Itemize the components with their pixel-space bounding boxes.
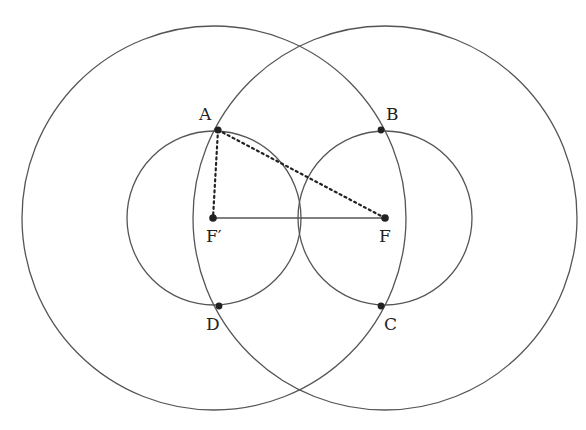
label-b: B xyxy=(386,106,399,123)
point-c xyxy=(378,303,385,310)
dotted-segment-a-f xyxy=(218,130,385,218)
ellipse-construction-diagram: A B C D F′ F xyxy=(0,0,586,430)
diagram-canvas xyxy=(0,0,586,430)
point-a xyxy=(214,126,221,133)
point-b xyxy=(378,127,385,134)
label-f: F xyxy=(379,228,391,245)
point-d xyxy=(216,303,223,310)
point-f xyxy=(381,214,389,222)
label-c: C xyxy=(384,316,397,333)
label-d: D xyxy=(206,316,220,333)
label-fprime: F′ xyxy=(206,228,222,245)
dotted-segment-a-fprime xyxy=(213,130,218,218)
point-fprime xyxy=(209,214,217,222)
label-a: A xyxy=(199,106,211,123)
